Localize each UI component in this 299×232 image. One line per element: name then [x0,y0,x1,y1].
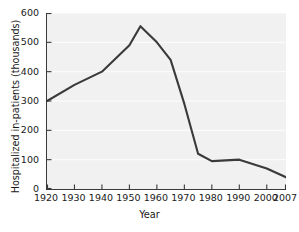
gridlines [47,13,286,160]
x-axis-tick-label: 1940 [89,193,113,203]
y-axis-tick-label: 100 [21,155,39,165]
plot-svg [47,13,286,189]
x-axis-tick-label: 1990 [226,193,250,203]
y-axis-tick-label: 400 [21,67,39,77]
x-axis-tick-label: 1980 [199,193,223,203]
chart-figure: 0100200300400500600 Hospitalized in-pati… [0,0,299,232]
x-axis-title: Year [0,209,299,220]
x-axis-tick-label: 1960 [144,193,168,203]
y-axis-tick-label: 500 [21,38,39,48]
y-axis-tick-label: 200 [21,126,39,136]
x-axis-tick-label: 1970 [171,193,195,203]
data-line-hospitalized-in-patients [47,26,286,177]
y-axis-tick-label: 300 [21,96,39,106]
x-axis-tick-label: 1930 [61,193,85,203]
x-axis-tick-label: 1950 [116,193,140,203]
plot-area [46,13,286,190]
x-axis-tick-label: 1920 [34,193,58,203]
x-axis-tick-marks [48,185,286,190]
y-axis-tick-label: 600 [21,8,39,18]
x-axis-tick-label: 2007 [273,193,297,203]
y-axis-title: Hospitalized in-patients (thousands) [10,19,21,195]
